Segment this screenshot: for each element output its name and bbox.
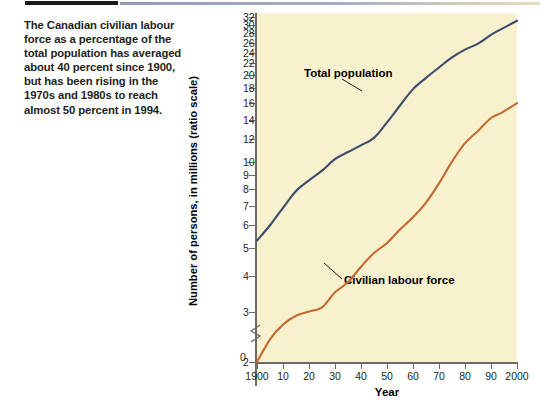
leader-line-total-population	[342, 79, 362, 91]
series-line-civilian-labour-force	[257, 103, 517, 362]
header-rule-light	[120, 2, 540, 5]
chart-container: 32302826242220181614121098765432 1900102…	[196, 6, 548, 406]
y-axis-break-mark	[251, 325, 260, 342]
figure-caption: The Canadian civilian labour force as a …	[24, 18, 192, 117]
header-rule-dark	[25, 1, 118, 5]
leader-line-civilian-labour-force	[324, 263, 342, 279]
chart-plot-svg	[196, 6, 548, 406]
